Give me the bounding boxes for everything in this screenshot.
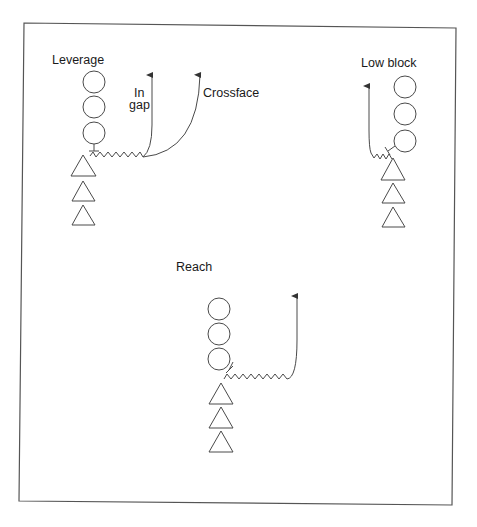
- route-label-crossface: Crossface: [203, 86, 259, 100]
- block-mark-icon: [89, 144, 99, 151]
- zigzag-block-icon: [224, 374, 287, 379]
- panel-low-block: Low block: [361, 56, 417, 227]
- panel-reach: Reach: [176, 260, 297, 452]
- offense-icons: [71, 155, 96, 225]
- zigzag-block-icon: [371, 153, 392, 159]
- offense-triangle-icon: [72, 205, 95, 225]
- defender-circle-icon: [83, 96, 105, 118]
- offense-icons: [381, 158, 405, 227]
- offense-triangle-icon: [382, 183, 405, 203]
- low-block-route-arrow-icon: [369, 86, 371, 153]
- route-label-gap: gap: [129, 98, 150, 112]
- defender-circle-icon: [394, 103, 416, 125]
- panel-title-low-block: Low block: [361, 56, 417, 70]
- block-mark-icon: [385, 146, 395, 155]
- offense-triangle-icon: [209, 431, 233, 452]
- defender-circle-icon: [208, 323, 230, 345]
- defender-icons: [394, 76, 416, 152]
- offense-triangle-icon: [209, 383, 233, 404]
- defender-circle-icon: [208, 298, 230, 320]
- offense-triangle-icon: [71, 155, 96, 176]
- offense-triangle-icon: [209, 407, 233, 428]
- defender-circle-icon: [208, 348, 230, 370]
- defender-circle-icon: [83, 71, 105, 93]
- defender-circle-icon: [394, 130, 416, 152]
- offense-triangle-icon: [382, 207, 405, 227]
- defender-circle-icon: [83, 122, 105, 144]
- defender-icons: [208, 298, 230, 370]
- panel-title-leverage: Leverage: [52, 53, 104, 67]
- panel-title-reach: Reach: [176, 260, 212, 274]
- panel-leverage: Leverage In gap Crossface: [52, 53, 259, 225]
- offense-triangle-icon: [381, 158, 405, 180]
- offense-triangle-icon: [72, 181, 95, 201]
- defender-icons: [83, 71, 105, 144]
- zigzag-block-icon: [90, 152, 143, 157]
- diagram-canvas: Leverage In gap Crossface Low block: [0, 0, 477, 527]
- reach-route-arrow-icon: [287, 296, 297, 379]
- offense-icons: [209, 383, 233, 452]
- defender-circle-icon: [394, 76, 416, 98]
